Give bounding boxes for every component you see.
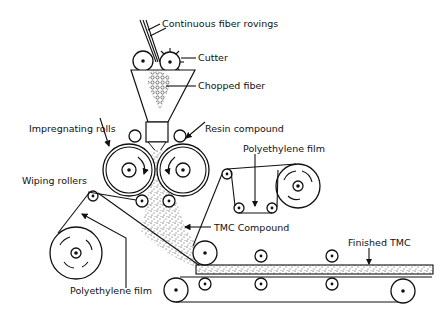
doctor-roller-right — [174, 130, 186, 142]
label-impregnating-rolls: Impregnating rolls — [29, 123, 116, 134]
label-polyethylene-film-bottom: Polyethylene film — [70, 285, 152, 296]
label-resin-compound: Resin compound — [205, 123, 284, 134]
upper-film-path — [193, 164, 320, 246]
tmc-process-diagram: Continuous fiber rovings Cutter Chopped … — [0, 0, 448, 320]
label-polyethylene-film-top: Polyethylene film — [243, 143, 325, 154]
label-chopped-fiber: Chopped fiber — [198, 80, 265, 91]
label-cutter: Cutter — [198, 52, 228, 63]
label-tmc-compound: TMC Compound — [213, 222, 289, 233]
doctor-roller-left — [129, 130, 141, 142]
leader-resin — [186, 122, 205, 138]
conveyor — [164, 241, 433, 303]
hopper — [131, 70, 196, 154]
cutter — [133, 48, 196, 72]
label-finished-tmc: Finished TMC — [348, 237, 411, 248]
label-wiping-rollers: Wiping rollers — [22, 175, 87, 186]
leader-rovings — [148, 24, 160, 30]
label-continuous-fiber-rovings: Continuous fiber rovings — [162, 18, 278, 29]
